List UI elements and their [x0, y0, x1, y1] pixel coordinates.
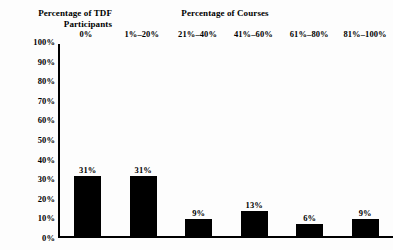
bar [352, 219, 379, 236]
y-axis-tick-label: 70% [10, 96, 55, 106]
bar-group: 9% [338, 44, 393, 236]
plot-area: 31% 31% 9% 13% 6% 9% [58, 44, 393, 238]
y-axis-tick-label: 80% [10, 76, 55, 86]
y-axis-tick-label: 90% [10, 57, 55, 67]
bar-group: 31% [116, 44, 172, 236]
bar-series: 31% 31% 9% 13% 6% 9% [60, 44, 393, 236]
bar-group: 31% [60, 44, 116, 236]
bar-group: 9% [171, 44, 227, 236]
y-axis-tick-labels: 100% 90% 80% 70% 60% 50% 40% 30% 20% 10%… [10, 42, 55, 238]
bar-group: 13% [227, 44, 283, 236]
y-axis-tick-label: 50% [10, 135, 55, 145]
category-label: 81%–100% [337, 29, 393, 42]
y-axis-tick-label: 40% [10, 155, 55, 165]
category-label: 1%–20% [114, 29, 170, 42]
y-axis-tick-label: 60% [10, 115, 55, 125]
y-axis-tick-label: 20% [10, 194, 55, 204]
y-axis-title-line-1: Percentage of TDF [0, 8, 112, 19]
category-label: 21%–40% [170, 29, 226, 42]
bar [185, 219, 212, 236]
bar [130, 176, 157, 236]
category-label: 41%–60% [225, 29, 281, 42]
chart-title: Percentage of Courses [145, 8, 305, 18]
bar-value-label: 13% [246, 200, 263, 210]
category-label: 0% [58, 29, 114, 42]
category-label: 61%–80% [281, 29, 337, 42]
bar [241, 211, 268, 236]
x-axis-line [58, 236, 393, 238]
bar-value-label: 6% [303, 213, 316, 223]
y-axis-tick-label: 10% [10, 213, 55, 223]
bar [296, 224, 323, 236]
bar-value-label: 9% [359, 208, 372, 218]
bar-value-label: 31% [135, 165, 152, 175]
bar-value-label: 9% [192, 208, 205, 218]
y-axis-tick-label: 0% [10, 233, 55, 243]
bar [74, 176, 101, 236]
bar-group: 6% [282, 44, 338, 236]
category-axis-labels: 0% 1%–20% 21%–40% 41%–60% 61%–80% 81%–10… [58, 29, 393, 42]
y-axis-tick-label: 100% [10, 37, 55, 47]
y-axis-tick-label: 30% [10, 174, 55, 184]
bar-value-label: 31% [79, 165, 96, 175]
y-axis-title: Percentage of TDF Participants [0, 8, 112, 30]
bar-chart-figure: Percentage of TDF Participants Percentag… [0, 0, 393, 250]
